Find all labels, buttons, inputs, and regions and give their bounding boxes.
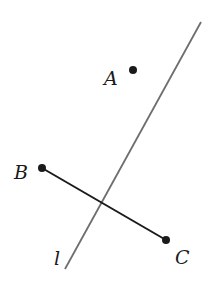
label-b: B [13, 161, 28, 183]
point-c [162, 236, 170, 244]
point-b [38, 164, 46, 172]
point-a [129, 66, 137, 74]
label-c: C [175, 246, 190, 268]
line-l [65, 22, 201, 269]
geometry-figure: A B C l [0, 0, 210, 284]
segment-bc [42, 168, 166, 240]
label-line-l: l [54, 247, 60, 269]
label-a: A [102, 67, 118, 89]
